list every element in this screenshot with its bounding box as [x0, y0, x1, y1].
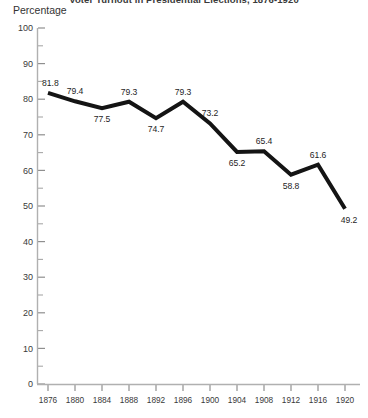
data-point-label: 65.4 — [256, 136, 273, 146]
data-point-label: 49.2 — [341, 215, 358, 225]
y-tick-label: 80 — [23, 94, 33, 104]
y-tick-label: 60 — [23, 166, 33, 176]
data-point-label: 77.5 — [94, 114, 111, 124]
x-tick-label: 1888 — [120, 395, 139, 405]
x-tick-label: 1896 — [174, 395, 193, 405]
y-tick-label: 30 — [23, 272, 33, 282]
data-point-label: 58.8 — [283, 181, 300, 191]
y-tick-label: 100 — [18, 23, 33, 33]
y-axis-tick-labels: 0102030405060708090100 — [18, 23, 33, 389]
data-point-label: 81.8 — [42, 78, 59, 88]
y-tick-label: 20 — [23, 308, 33, 318]
x-tick-label: 1876 — [39, 395, 58, 405]
x-tick-label: 1880 — [66, 395, 85, 405]
x-tick-label: 1904 — [228, 395, 247, 405]
data-point-label: 79.3 — [175, 87, 192, 97]
data-point-label: 73.2 — [202, 108, 219, 118]
x-axis-tick-labels: 1876188018841888189218961900190419081912… — [39, 395, 355, 405]
x-tick-label: 1916 — [309, 395, 328, 405]
data-point-label: 74.7 — [148, 124, 165, 134]
data-point-label: 65.2 — [229, 158, 246, 168]
y-tick-label: 50 — [23, 201, 33, 211]
data-point-label: 61.6 — [310, 150, 327, 160]
x-tick-label: 1892 — [147, 395, 166, 405]
line-chart-plot: 0102030405060708090100 18761880188418881… — [0, 0, 368, 418]
y-tick-label: 40 — [23, 237, 33, 247]
chart-page: Voter Turnout in Presidential Elections,… — [0, 0, 368, 418]
x-tick-label: 1908 — [255, 395, 274, 405]
y-tick-label: 90 — [23, 59, 33, 69]
data-point-label: 79.3 — [121, 87, 138, 97]
x-tick-label: 1884 — [93, 395, 112, 405]
x-tick-label: 1900 — [201, 395, 220, 405]
data-point-label: 79.4 — [67, 86, 84, 96]
x-axis-ticks — [48, 385, 345, 391]
y-tick-label: 70 — [23, 130, 33, 140]
turnout-series-line — [48, 93, 345, 209]
x-tick-label: 1912 — [282, 395, 301, 405]
x-tick-label: 1920 — [336, 395, 355, 405]
y-tick-label: 10 — [23, 344, 33, 354]
data-point-labels: 81.879.477.579.374.779.373.265.265.458.8… — [42, 78, 358, 225]
y-tick-label: 0 — [28, 379, 33, 389]
